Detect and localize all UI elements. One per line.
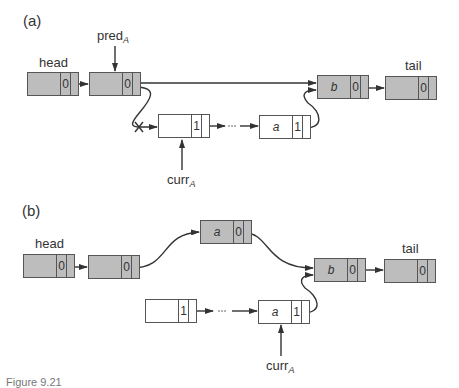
node-curr-a: 1 xyxy=(158,114,210,138)
node-pred-a: 0 xyxy=(89,72,141,96)
node-mark: 0 xyxy=(61,73,71,95)
node-key: a xyxy=(260,116,293,138)
head-label-a: head xyxy=(39,55,68,70)
node-mark: 0 xyxy=(419,77,429,99)
edge-b-pred-to-new xyxy=(132,232,199,268)
node-b-b: b 0 xyxy=(314,258,366,282)
node-mark: 0 xyxy=(123,73,133,95)
curr-subscript: A xyxy=(189,179,195,189)
tail-label-a: tail xyxy=(405,58,422,73)
node-head-b: 0 xyxy=(23,254,75,278)
diagram-edges xyxy=(0,0,459,388)
panel-label-b: (b) xyxy=(22,202,40,219)
node-mark: 0 xyxy=(418,260,428,282)
node-next xyxy=(358,259,365,281)
tail-label-b: tail xyxy=(402,241,419,256)
node-tail-a: 0 xyxy=(385,76,437,100)
curr-subscript: A xyxy=(288,365,294,375)
node-mark: 1 xyxy=(292,301,302,323)
node-next xyxy=(361,76,368,98)
node-key xyxy=(146,300,179,322)
head-label-b: head xyxy=(35,236,64,251)
node-key: a xyxy=(259,301,292,323)
node-key: b xyxy=(318,76,351,98)
node-mark: 1 xyxy=(192,115,202,137)
panel-label-a: (a) xyxy=(23,12,41,29)
node-key xyxy=(385,260,418,282)
node-key: a xyxy=(201,221,234,243)
node-mark: 1 xyxy=(293,116,303,138)
node-b-a: b 0 xyxy=(317,75,369,99)
node-next xyxy=(244,221,251,243)
node-pred-b: 0 xyxy=(88,255,140,279)
node-key xyxy=(24,255,57,277)
node-mark: 0 xyxy=(351,76,361,98)
curr-name: curr xyxy=(167,172,189,187)
curr-pointer-label-a: currA xyxy=(167,172,195,189)
curr-name: curr xyxy=(266,358,288,373)
node-next xyxy=(302,301,309,323)
node-new-a-b: a 0 xyxy=(200,220,252,244)
node-curr-b: a 1 xyxy=(258,300,310,324)
node-next xyxy=(133,73,140,95)
node-next xyxy=(71,73,78,95)
node-next xyxy=(189,300,196,322)
node-key xyxy=(386,77,419,99)
node-next xyxy=(67,255,74,277)
node-next xyxy=(132,256,139,278)
node-tail-b: 0 xyxy=(384,259,436,283)
node-mark: 1 xyxy=(179,300,189,322)
pred-pointer-label-a: predA xyxy=(97,28,129,45)
node-key xyxy=(90,73,123,95)
node-mark: 0 xyxy=(348,259,358,281)
node-mark: 0 xyxy=(122,256,132,278)
node-marked-b: 1 xyxy=(145,299,197,323)
node-key: b xyxy=(315,259,348,281)
curr-pointer-label-b: currA xyxy=(266,358,294,375)
node-head-a: 0 xyxy=(27,72,79,96)
node-a-a: a 1 xyxy=(259,115,311,139)
node-key xyxy=(89,256,122,278)
node-key xyxy=(28,73,61,95)
node-next xyxy=(429,77,436,99)
node-mark: 0 xyxy=(57,255,67,277)
node-mark: 0 xyxy=(234,221,244,243)
node-next xyxy=(303,116,310,138)
pred-subscript: A xyxy=(123,35,129,45)
figure-caption: Figure 9.21 xyxy=(6,376,62,388)
edge-b-new-to-b xyxy=(245,233,313,268)
node-next xyxy=(428,260,435,282)
pred-name: pred xyxy=(97,28,123,43)
node-key xyxy=(159,115,192,137)
node-next xyxy=(202,115,209,137)
